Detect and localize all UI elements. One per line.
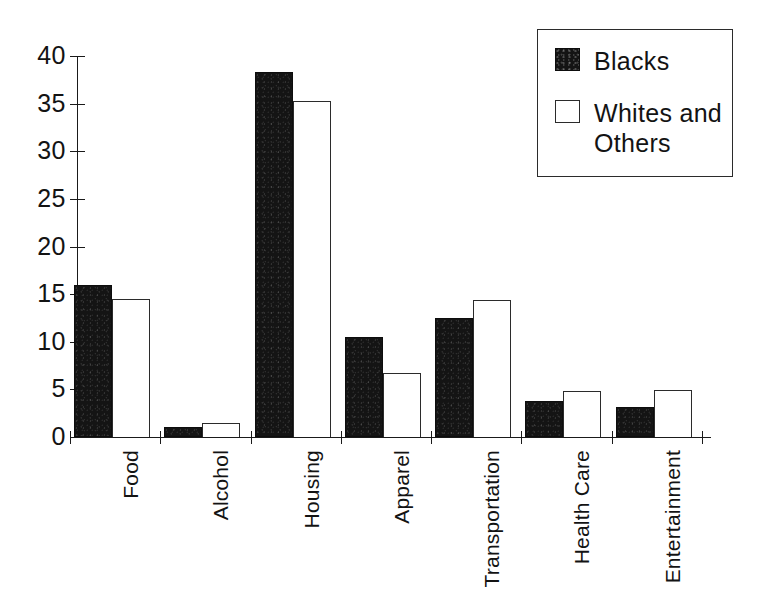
y-axis-tick-label-text: 30 [22, 138, 66, 163]
bar-transportation-blacks [435, 318, 473, 437]
bar-food-blacks [74, 285, 112, 437]
legend-entry-blacks: Blacks [555, 46, 669, 76]
legend-label-whites-and-others: Whites and Others [594, 98, 732, 158]
x-axis-label-food: Food [120, 450, 141, 499]
y-axis-tick-label: 35 [0, 91, 66, 116]
legend-swatch-whites-and-others-icon [555, 100, 580, 123]
y-axis-tick-label-text: 20 [22, 234, 66, 259]
y-axis-tick-label-text: 10 [22, 329, 66, 354]
y-axis-tick-label-text: 15 [22, 281, 66, 306]
x-axis-line [70, 437, 711, 438]
legend: Blacks Whites and Others [537, 29, 733, 177]
x-axis-tick [70, 431, 71, 444]
bar-housing-blacks [255, 72, 293, 437]
bar-health-care-blacks [525, 401, 563, 437]
bar-alcohol-blacks [164, 427, 202, 437]
y-axis-tick-label-text: 40 [22, 43, 66, 68]
x-axis-label-housing: Housing [301, 450, 322, 528]
y-axis-tick-label: 20 [0, 234, 66, 259]
bar-chart: 0510152025303540 FoodAlcoholHousingAppar… [0, 0, 759, 592]
x-axis-label-health-care: Health Care [571, 450, 592, 564]
bar-transportation-whites-and-others [473, 300, 511, 437]
y-axis-tick-label: 10 [0, 329, 66, 354]
bar-alcohol-whites-and-others [202, 423, 240, 437]
x-axis-label-apparel: Apparel [391, 450, 412, 524]
bar-health-care-whites-and-others [563, 391, 601, 437]
y-axis-tick-label: 25 [0, 186, 66, 211]
y-axis-tick-label: 0 [0, 424, 66, 449]
bar-entertainment-blacks [616, 407, 654, 437]
bar-housing-whites-and-others [293, 101, 331, 437]
legend-entry-whites-and-others: Whites and Others [555, 98, 732, 158]
y-axis-tick-label: 15 [0, 281, 66, 306]
legend-swatch-blacks-icon [555, 48, 580, 71]
bar-apparel-whites-and-others [383, 373, 421, 437]
y-axis-tick-label-text: 25 [22, 186, 66, 211]
bar-entertainment-whites-and-others [654, 390, 692, 437]
y-axis-tick-label-text: 0 [22, 424, 66, 449]
x-axis-label-transportation: Transportation [481, 450, 502, 587]
x-axis-label-entertainment: Entertainment [662, 450, 683, 583]
legend-label-blacks: Blacks [594, 46, 669, 76]
y-axis-tick-label-text: 5 [22, 376, 66, 401]
y-axis-tick-label-text: 35 [22, 91, 66, 116]
bar-food-whites-and-others [112, 299, 150, 437]
x-axis-label-alcohol: Alcohol [210, 450, 231, 520]
bar-apparel-blacks [345, 337, 383, 437]
y-axis-tick-label: 40 [0, 43, 66, 68]
y-axis-tick [70, 437, 85, 438]
y-axis-tick-label: 5 [0, 376, 66, 401]
y-axis-tick-label: 30 [0, 138, 66, 163]
